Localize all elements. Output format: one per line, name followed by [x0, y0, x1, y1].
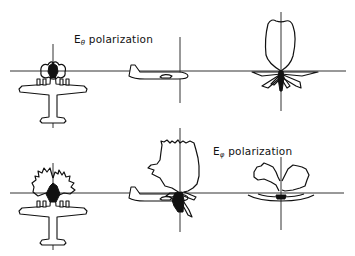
label-polarization-text: polarization	[85, 33, 153, 45]
radiation-pattern-figure: Eθ polarization Eφ polarization	[0, 0, 355, 256]
diagram-canvas	[0, 0, 355, 256]
label-e-symbol: E	[74, 33, 81, 45]
label-e-symbol-2: E	[213, 145, 220, 157]
pattern-top-right	[252, 20, 318, 91]
label-e-theta-polarization: Eθ polarization	[74, 33, 153, 47]
row-e-phi	[10, 128, 344, 250]
row-e-theta	[10, 12, 346, 128]
label-e-phi-polarization: Eφ polarization	[213, 145, 292, 159]
pattern-bottom-middle	[148, 140, 199, 217]
label-polarization-text-2: polarization	[225, 145, 293, 157]
aircraft-side-view-icon	[129, 65, 188, 79]
